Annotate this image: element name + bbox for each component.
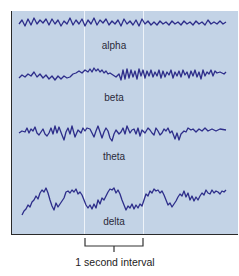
interval-caption: 1 second interval xyxy=(40,256,190,268)
interval-bracket xyxy=(0,0,239,276)
